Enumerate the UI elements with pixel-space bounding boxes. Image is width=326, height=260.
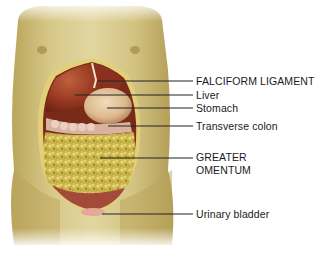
label-greater-omentum-line1: GREATER	[196, 151, 247, 163]
label-stomach: Stomach	[196, 102, 238, 114]
urinary-bladder	[81, 208, 105, 216]
label-urinary-bladder: Urinary bladder	[196, 208, 269, 220]
left-nipple	[37, 46, 47, 54]
label-liver: Liver	[196, 89, 219, 101]
right-nipple	[130, 46, 140, 54]
label-falciform-ligament: FALCIFORM LIGAMENT	[196, 75, 314, 87]
stomach	[84, 88, 132, 124]
label-transverse-colon: Transverse colon	[196, 120, 278, 132]
label-greater-omentum-line2: OMENTUM	[196, 164, 251, 176]
